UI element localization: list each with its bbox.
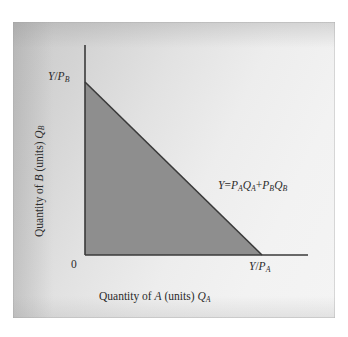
figure-root: Y/PB Y/PA 0 Y=PAQA+PBQB Quantity of A (u… bbox=[0, 0, 348, 337]
budget-equation-label: Y=PAQA+PBQB bbox=[218, 180, 287, 193]
y-axis-title: Quantity of B (units) QB bbox=[34, 101, 47, 261]
x-intercept-label: Y/PA bbox=[249, 261, 270, 274]
x-axis-title: Quantity of A (units) QA bbox=[99, 291, 210, 304]
plot-canvas bbox=[0, 0, 348, 337]
origin-label: 0 bbox=[71, 259, 77, 271]
y-intercept-label: Y/PB bbox=[48, 71, 69, 84]
